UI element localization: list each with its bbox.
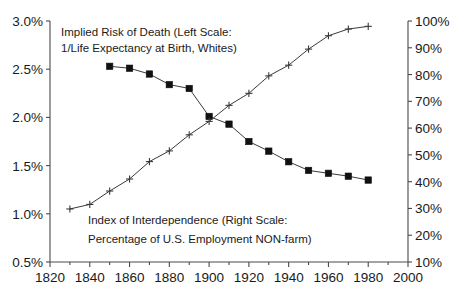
left-axis-ticks — [46, 21, 50, 262]
data-point-marker-plus — [325, 32, 332, 39]
right-tick-label: 100% — [415, 14, 450, 29]
left-tick-label: 0.5% — [12, 255, 43, 270]
death-risk-annotation: Implied Risk of Death (Left Scale: 1/Lif… — [61, 26, 237, 54]
right-tick-label: 60% — [415, 121, 442, 136]
data-point-marker-square — [246, 138, 252, 144]
right-tick-label: 40% — [415, 175, 442, 190]
right-tick-label: 10% — [415, 255, 442, 270]
data-point-marker-square — [285, 159, 291, 165]
x-tick-label: 1940 — [274, 270, 304, 285]
x-tick-label: 1900 — [194, 270, 224, 285]
right-axis-ticks — [408, 21, 412, 262]
right-tick-label: 30% — [415, 201, 442, 216]
right-tick-label: 90% — [415, 41, 442, 56]
death-risk-annotation-line2: 1/Life Expectancy at Birth, Whites) — [61, 42, 237, 54]
interdependence-annotation: Index of Interdependence (Right Scale: P… — [88, 214, 312, 245]
x-tick-label: 1840 — [75, 270, 105, 285]
data-point-marker-square — [345, 173, 351, 179]
data-point-marker-square — [126, 65, 132, 71]
left-tick-label: 2.5% — [12, 62, 43, 77]
data-point-marker-plus — [106, 187, 113, 194]
data-point-marker-square — [226, 121, 232, 127]
data-point-marker-plus — [345, 25, 352, 32]
data-point-marker-square — [365, 177, 371, 183]
x-axis-tick-labels: 1820184018601880190019201940196019802000 — [35, 270, 423, 285]
x-tick-label: 1920 — [234, 270, 264, 285]
data-point-marker-square — [166, 81, 172, 87]
left-tick-label: 2.0% — [12, 110, 43, 125]
x-tick-label: 1980 — [353, 270, 383, 285]
data-point-marker-square — [106, 63, 112, 69]
x-tick-label: 1880 — [154, 270, 184, 285]
data-point-marker-square — [325, 170, 331, 176]
data-point-marker-square — [305, 167, 311, 173]
dual-axis-line-chart: 0.5%1.0%1.5%2.0%2.5%3.0% 10%20%30%40%50%… — [0, 0, 457, 296]
left-tick-label: 3.0% — [12, 14, 43, 29]
x-tick-label: 1860 — [115, 270, 145, 285]
chart-container: 0.5%1.0%1.5%2.0%2.5%3.0% 10%20%30%40%50%… — [0, 0, 457, 296]
right-tick-label: 80% — [415, 68, 442, 83]
left-tick-label: 1.5% — [12, 159, 43, 174]
data-point-marker-square — [186, 85, 192, 91]
data-point-marker-plus — [86, 201, 93, 208]
interdependence-annotation-line2: Percentage of U.S. Employment NON-farm) — [88, 233, 312, 245]
data-point-marker-square — [146, 71, 152, 77]
right-axis-tick-labels: 10%20%30%40%50%60%70%80%90%100% — [415, 14, 450, 270]
right-tick-label: 70% — [415, 94, 442, 109]
x-tick-label: 2000 — [393, 270, 423, 285]
x-tick-label: 1960 — [313, 270, 343, 285]
data-point-marker-plus — [66, 205, 73, 212]
series-implied-risk-of-death — [106, 63, 371, 183]
right-tick-label: 20% — [415, 228, 442, 243]
left-axis-tick-labels: 0.5%1.0%1.5%2.0%2.5%3.0% — [12, 14, 43, 270]
data-point-marker-square — [266, 148, 272, 154]
death-risk-annotation-line1: Implied Risk of Death (Left Scale: — [61, 26, 232, 38]
x-tick-label: 1820 — [35, 270, 65, 285]
data-point-marker-plus — [365, 23, 372, 30]
right-tick-label: 50% — [415, 148, 442, 163]
interdependence-annotation-line1: Index of Interdependence (Right Scale: — [88, 214, 287, 226]
x-axis-ticks — [50, 262, 408, 267]
left-tick-label: 1.0% — [12, 207, 43, 222]
